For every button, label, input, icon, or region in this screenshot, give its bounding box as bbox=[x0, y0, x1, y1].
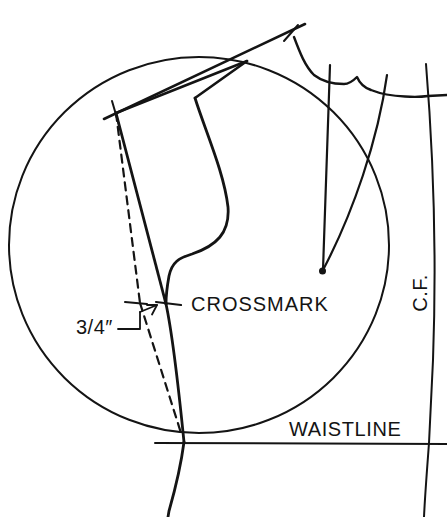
neckline-curve bbox=[294, 37, 447, 97]
seam-tail-below-waist bbox=[168, 442, 184, 517]
dart-point-dot bbox=[319, 268, 326, 275]
waistline-label: WAISTLINE bbox=[289, 419, 401, 439]
dart-leg-right bbox=[323, 75, 387, 270]
seam-line-upper bbox=[116, 113, 166, 304]
dashed-old-seam-upper bbox=[116, 113, 140, 303]
crossmark-label: CROSSMARK bbox=[191, 294, 329, 314]
seam-line-lower bbox=[166, 304, 184, 442]
seam-crossmark-tick bbox=[156, 302, 181, 305]
measurement-label: 3/4″ bbox=[76, 317, 113, 337]
center-front-label: C.F. bbox=[410, 273, 430, 313]
pattern-diagram: CROSSMARK 3/4″ C.F. WAISTLINE bbox=[0, 0, 447, 517]
dashed-line-tick bbox=[125, 302, 147, 304]
waistline-line bbox=[155, 443, 447, 444]
armhole-curve bbox=[166, 98, 228, 304]
dart-leg-left bbox=[323, 65, 330, 270]
measure-leader-line bbox=[118, 312, 140, 329]
